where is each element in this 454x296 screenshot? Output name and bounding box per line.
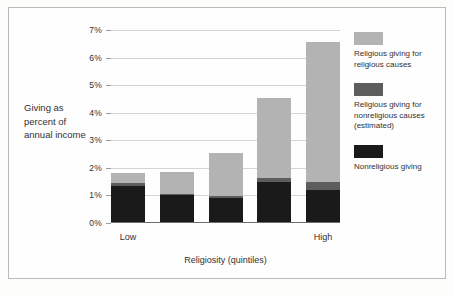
x-axis-baseline [111,222,340,223]
y-tick-mark-6 [106,58,111,59]
y-tick-mark-3 [106,140,111,141]
bar-4[interactable] [257,98,291,223]
y-tick-label-1: 1% [89,190,102,200]
legend-label-2: Religious giving for nonreligious causes… [354,100,442,132]
bar-3-segment-3 [209,153,243,197]
plot-area: 0%1%2%3%4%5%6%7% LowHigh [111,30,340,223]
legend-item-1[interactable]: Religious giving for religious causes [354,32,442,70]
x-tick-label-high: High [314,232,333,242]
bar-2-segment-3 [160,172,194,194]
bar-5[interactable] [306,42,340,223]
gridline-7 [111,30,340,31]
bar-3[interactable] [209,153,243,223]
legend-swatch-religious-nonreligious [354,83,383,96]
bar-5-segment-1 [306,190,340,223]
bar-4-segment-1 [257,182,291,223]
y-tick-label-4: 4% [89,108,102,118]
bar-1-segment-3 [111,173,145,183]
y-tick-mark-5 [106,85,111,86]
y-tick-label-0: 0% [89,218,102,228]
legend-item-3[interactable]: Nonreligious giving [354,145,442,173]
y-tick-label-2: 2% [89,163,102,173]
legend-label-1: Religious giving for religious causes [354,49,442,70]
legend-item-2[interactable]: Religious giving for nonreligious causes… [354,83,442,132]
y-tick-mark-2 [106,168,111,169]
y-tick-mark-4 [106,113,111,114]
bar-1[interactable] [111,173,145,223]
y-tick-label-3: 3% [89,135,102,145]
bar-2-segment-1 [160,195,194,223]
y-tick-mark-0 [106,223,111,224]
y-tick-label-5: 5% [89,80,102,90]
legend-swatch-nonreligious [354,145,383,158]
y-tick-label-6: 6% [89,53,102,63]
bar-1-segment-1 [111,186,145,223]
x-tick-label-low: Low [120,232,137,242]
y-tick-label-7: 7% [89,25,102,35]
chart-figure: Giving as percent of annual income 0%1%2… [0,0,454,296]
legend-label-3: Nonreligious giving [354,162,442,173]
y-tick-mark-7 [106,30,111,31]
bar-5-segment-3 [306,42,340,181]
legend-swatch-religious-religious [354,32,383,45]
bar-5-segment-2 [306,182,340,190]
chart-legend: Religious giving for religious causesRel… [354,32,442,185]
bar-2[interactable] [160,172,194,223]
bar-3-segment-1 [209,198,243,223]
y-axis-title: Giving as percent of annual income [24,101,96,142]
bar-4-segment-3 [257,98,291,179]
x-axis-title: Religiosity (quintiles) [111,255,340,265]
